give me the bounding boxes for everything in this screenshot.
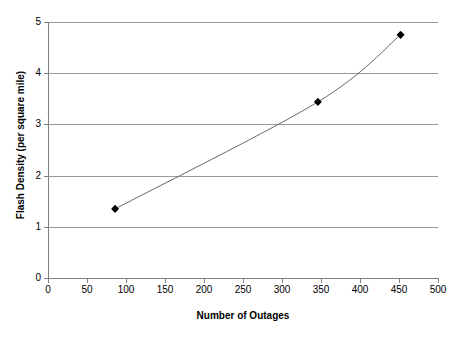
series-line — [115, 35, 401, 209]
series-markers — [112, 32, 404, 212]
data-series-layer — [0, 0, 463, 338]
data-point-marker — [112, 206, 118, 212]
y-axis-title: Flash Density (per square mile) — [15, 17, 27, 273]
data-point-marker — [315, 99, 321, 105]
chart-container: 012345 050100150200250300350400450500 Nu… — [0, 0, 463, 338]
x-axis-title: Number of Outages — [48, 310, 438, 322]
